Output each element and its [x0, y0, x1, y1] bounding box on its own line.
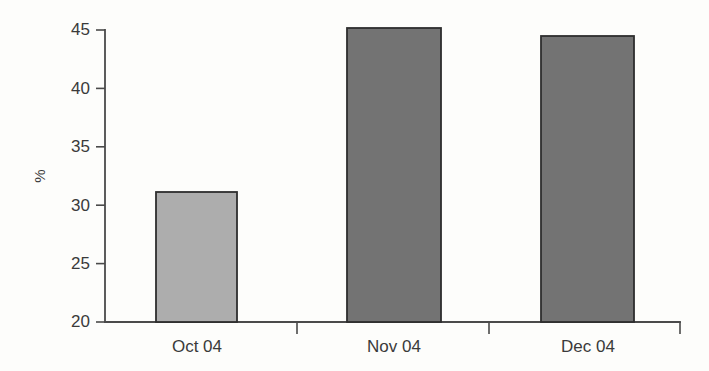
- y-tick-label-25: 25: [71, 254, 90, 273]
- bar-nov-04: [347, 28, 441, 322]
- y-tick-label-45: 45: [71, 20, 90, 39]
- y-tick-label-40: 40: [71, 79, 90, 98]
- y-tick-label-30: 30: [71, 196, 90, 215]
- x-tick-label-dec-04: Dec 04: [561, 337, 615, 356]
- x-tick-label-nov-04: Nov 04: [367, 337, 421, 356]
- bar-dec-04: [541, 36, 634, 322]
- bar-chart: 45 40 35 30 25 20 % Oct 04 Nov 04 Dec 04: [0, 0, 709, 371]
- bar-oct-04: [156, 192, 237, 322]
- chart-canvas: 45 40 35 30 25 20 % Oct 04 Nov 04 Dec 04: [0, 0, 709, 371]
- y-tick-label-20: 20: [71, 312, 90, 331]
- x-tick-label-oct-04: Oct 04: [172, 337, 222, 356]
- y-axis-title: %: [31, 169, 48, 182]
- y-tick-label-35: 35: [71, 137, 90, 156]
